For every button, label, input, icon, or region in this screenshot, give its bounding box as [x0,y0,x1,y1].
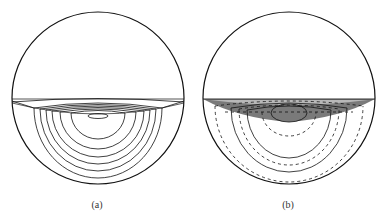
panel-b [200,12,378,184]
arc [52,111,144,157]
figure [0,0,385,214]
caption-a: (a) [77,199,117,210]
boundary-circle [12,12,184,184]
arc [71,113,125,139]
panel-a [10,12,186,184]
caption-b: (b) [268,199,308,210]
